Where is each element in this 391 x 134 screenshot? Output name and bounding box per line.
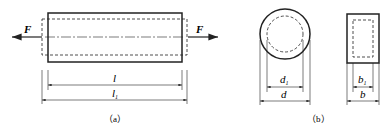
dim-l-label: l	[113, 72, 116, 84]
rect-section-deformed	[353, 20, 373, 57]
force-left-label: F	[23, 23, 32, 35]
dim-b-label: b	[360, 88, 366, 100]
dim-b1-label: b1	[358, 73, 367, 86]
dim-l1-label: l1	[112, 87, 118, 100]
caption-b: （b）	[307, 114, 330, 124]
dim-d1-label: d1	[280, 73, 289, 86]
force-right-label: F	[195, 23, 204, 35]
round-section-deformed	[267, 16, 303, 52]
dim-d-label: d	[281, 88, 287, 100]
rect-section	[347, 14, 379, 63]
round-section	[260, 9, 310, 59]
caption-a: （a）	[104, 114, 126, 124]
tensile-specimen-diagram: F F l l1 （a） d1 d b1 b （b）	[0, 0, 391, 134]
